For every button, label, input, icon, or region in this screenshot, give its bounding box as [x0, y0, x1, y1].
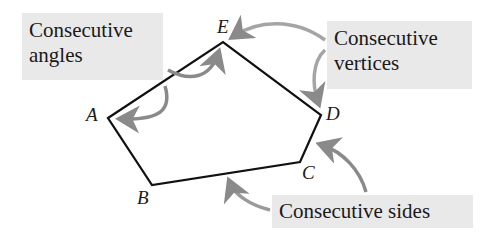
label-consecutive-sides: Consecutive sides: [272, 195, 473, 228]
vertex-label-a: A: [86, 105, 98, 124]
vertex-label-e: E: [217, 17, 229, 36]
arrow-angle-e: [168, 54, 218, 77]
vertex-label-b: B: [137, 188, 149, 207]
label-consecutive-vertices: Consecutive vertices: [327, 21, 472, 89]
arrow-side-cd: [322, 145, 366, 192]
label-sides-text: Consecutive sides: [279, 199, 430, 223]
label-vertices-line1: Consecutive: [334, 26, 465, 51]
label-vertices-line2: vertices: [334, 51, 465, 76]
vertex-label-d: D: [326, 104, 340, 123]
vertex-label-c: C: [302, 163, 315, 182]
label-angles-line2: angles: [29, 43, 156, 68]
arrow-angle-a: [122, 86, 167, 119]
label-angles-line1: Consecutive: [29, 18, 156, 43]
arrow-vertex-d: [314, 50, 325, 102]
arrow-side-bc: [230, 183, 270, 210]
arrow-vertex-e: [234, 24, 325, 40]
label-consecutive-angles: Consecutive angles: [22, 13, 163, 80]
